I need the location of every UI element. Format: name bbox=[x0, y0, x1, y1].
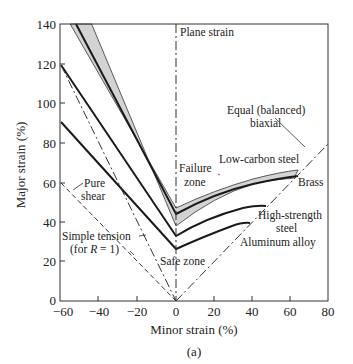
y-axis-title: Major strain (%) bbox=[13, 122, 28, 209]
label-high-strength-steel: steel bbox=[276, 222, 297, 234]
y-tick-label: 20 bbox=[43, 254, 56, 269]
x-tick-label: 20 bbox=[208, 304, 221, 319]
x-tick-label: 0 bbox=[173, 304, 180, 319]
forming-limit-chart: 0 20 40 60 80 100 120 140 −60 −40 −20 0 … bbox=[0, 0, 353, 364]
x-ticks bbox=[98, 296, 290, 301]
y-tick-label: 100 bbox=[37, 96, 57, 111]
label-low-carbon-steel: Low-carbon steel bbox=[219, 153, 299, 165]
y-tick-label: 40 bbox=[43, 215, 56, 230]
x-tick-label: 60 bbox=[284, 304, 297, 319]
label-pure-shear: Pure bbox=[84, 177, 105, 189]
label-simple-tension: (for R = 1) bbox=[70, 243, 119, 256]
label-high-strength-steel: High-strength bbox=[258, 209, 322, 222]
label-equal-biaxial: biaxial bbox=[250, 117, 281, 129]
y-tick-label: 80 bbox=[43, 136, 56, 151]
pure-shear-line bbox=[61, 183, 176, 301]
label-pure-shear: shear bbox=[81, 190, 105, 202]
x-axis-title: Minor strain (%) bbox=[150, 322, 237, 337]
label-failure-zone: zone bbox=[184, 176, 206, 188]
x-tick-label: −60 bbox=[53, 304, 73, 319]
label-equal-biaxial: Equal (balanced) bbox=[227, 104, 305, 117]
high-strength-steel-curve bbox=[61, 65, 266, 236]
y-tick-label: 120 bbox=[37, 57, 57, 72]
x-tick-label: 40 bbox=[246, 304, 259, 319]
y-tick-label: 60 bbox=[43, 176, 56, 191]
label-simple-tension: Simple tension bbox=[62, 230, 131, 243]
x-tick-label: −40 bbox=[89, 304, 109, 319]
label-safe-zone: Safe zone bbox=[160, 255, 205, 267]
y-tick-label: 140 bbox=[37, 17, 57, 32]
caption: (a) bbox=[187, 344, 201, 359]
label-brass: Brass bbox=[298, 176, 324, 188]
label-aluminum-alloy: Aluminum alloy bbox=[240, 236, 316, 249]
x-tick-label: 80 bbox=[322, 304, 335, 319]
x-tick-label: −20 bbox=[127, 304, 147, 319]
label-failure-zone: Failure bbox=[179, 162, 212, 174]
label-plane-strain: Plane strain bbox=[180, 26, 234, 38]
